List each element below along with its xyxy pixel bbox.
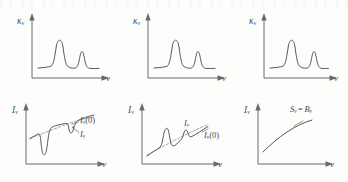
axes <box>29 13 109 81</box>
axes <box>261 13 337 81</box>
y-axis-label-intensity: Iν <box>12 106 18 116</box>
opacity-curve <box>270 40 329 68</box>
y-axis-arrow <box>29 13 34 21</box>
opacity-curve <box>38 40 99 68</box>
y-axis-label-kappa: κν <box>133 17 140 27</box>
annotation-intensity-i-nu: Iν <box>80 130 85 139</box>
axes <box>145 13 225 81</box>
x-axis-label-nu: ν <box>334 74 338 83</box>
x-axis-label-nu: ν <box>222 74 226 83</box>
y-axis-arrow <box>23 103 28 111</box>
y-axis-arrow <box>261 13 266 21</box>
y-axis-arrow <box>139 103 144 111</box>
y-axis-arrow <box>145 13 150 21</box>
panel-opacity-blackbody: κν ν <box>232 6 348 88</box>
panel-opacity-absorption: κν ν <box>0 6 116 88</box>
annotation-continuum-i-nu-zero: Iν(0) <box>204 131 219 140</box>
x-axis-label-nu: ν <box>106 74 110 83</box>
intensity-curve <box>147 127 208 157</box>
y-axis-label-intensity: Iν <box>128 106 134 116</box>
y-axis-label-kappa: κν <box>249 17 256 27</box>
radiative-transfer-figure: κν ν κν ν κν ν <box>0 0 348 182</box>
panel-intensity-emission-lines: Iν ν Iν Iν(0) <box>116 94 232 182</box>
opacity-curve <box>154 40 215 68</box>
annotation-intensity-i-nu: Iν <box>184 119 189 128</box>
continuum-dashed-line <box>147 125 208 155</box>
y-axis-arrow <box>255 103 260 111</box>
y-axis-label-intensity: Iν <box>244 106 250 116</box>
annotation-source-equals-planck: Sν=Bν <box>290 105 312 114</box>
x-axis-label-nu: ν <box>218 160 222 169</box>
panel-intensity-absorption-lines: Iν ν Iν(0) Iν <box>0 94 116 182</box>
panel-intensity-blackbody: Iν ν Sν=Bν <box>232 94 348 182</box>
panel-opacity-emission: κν ν <box>116 6 232 88</box>
x-axis-label-nu: ν <box>330 160 334 169</box>
planck-continuum-curve <box>263 120 312 152</box>
leader-dot <box>72 127 74 129</box>
y-axis-label-kappa: κν <box>17 17 24 27</box>
x-axis-label-nu: ν <box>102 160 106 169</box>
annotation-continuum-i-nu-zero: Iν(0) <box>80 116 95 125</box>
